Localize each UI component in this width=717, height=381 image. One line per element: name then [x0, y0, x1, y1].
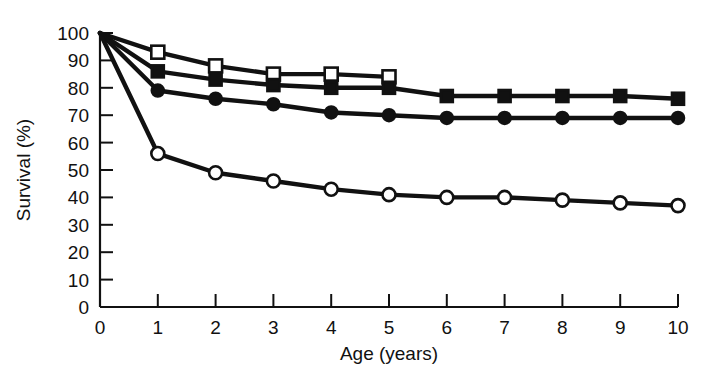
filled-square-series-marker: [325, 82, 337, 94]
x-axis-title: Age (years): [340, 343, 438, 364]
x-tick-label: 0: [95, 317, 106, 338]
filled-square-series-marker: [152, 65, 164, 77]
y-tick-label: 80: [68, 78, 89, 99]
filled-square-series-marker: [210, 74, 222, 86]
y-axis-title: Survival (%): [13, 119, 34, 221]
y-tick-label: 10: [68, 270, 89, 291]
x-tick-label: 1: [153, 317, 164, 338]
open-square-series-marker: [209, 59, 222, 72]
x-tick-label: 5: [384, 317, 395, 338]
filled-circle-series-marker: [152, 85, 164, 97]
open-circle-series-marker: [440, 191, 453, 204]
y-tick-label: 40: [68, 187, 89, 208]
filled-circle-series-marker: [672, 112, 684, 124]
open-circle-series-marker: [498, 191, 511, 204]
open-circle-series-marker: [151, 147, 164, 160]
filled-square-series-marker: [556, 90, 568, 102]
filled-square-series-marker: [383, 82, 395, 94]
open-circle-series-marker: [383, 188, 396, 201]
filled-square-series-marker: [441, 90, 453, 102]
filled-square-series-marker: [499, 90, 511, 102]
filled-circle-series-marker: [267, 98, 279, 110]
filled-circle-series-marker: [499, 112, 511, 124]
open-circle-series-marker: [325, 183, 338, 196]
filled-circle-series-marker: [383, 109, 395, 121]
filled-square-series-marker: [614, 90, 626, 102]
y-tick-label: 50: [68, 160, 89, 181]
filled-circle-series-marker: [614, 112, 626, 124]
survival-curve-figure: 0102030405060708090100 012345678910 Age …: [0, 0, 717, 381]
x-tick-label: 8: [557, 317, 568, 338]
x-tick-label: 2: [210, 317, 221, 338]
open-square-series-marker: [151, 46, 164, 59]
open-square-series-marker: [325, 68, 338, 81]
open-circle-series-marker: [672, 199, 685, 212]
filled-square-series-marker: [267, 79, 279, 91]
filled-circle-series-marker: [441, 112, 453, 124]
y-tick-label: 0: [78, 297, 89, 318]
filled-circle-series-marker: [210, 93, 222, 105]
filled-circle-series-marker: [556, 112, 568, 124]
open-circle-series-marker: [209, 166, 222, 179]
filled-circle-series-marker: [325, 106, 337, 118]
filled-square-series-marker: [672, 93, 684, 105]
y-tick-label: 90: [68, 50, 89, 71]
open-circle-series-marker: [556, 194, 569, 207]
x-tick-label: 6: [442, 317, 453, 338]
x-tick-label: 10: [667, 317, 688, 338]
y-tick-label: 30: [68, 215, 89, 236]
survival-chart: 0102030405060708090100 012345678910 Age …: [0, 0, 717, 381]
open-circle-series-marker: [267, 174, 280, 187]
y-tick-label: 20: [68, 242, 89, 263]
x-tick-label: 7: [499, 317, 510, 338]
y-tick-label: 100: [57, 23, 89, 44]
y-tick-label: 70: [68, 105, 89, 126]
open-circle-series-marker: [614, 196, 627, 209]
x-tick-label: 9: [615, 317, 626, 338]
y-tick-label: 60: [68, 133, 89, 154]
x-tick-label: 3: [268, 317, 279, 338]
x-tick-label: 4: [326, 317, 337, 338]
